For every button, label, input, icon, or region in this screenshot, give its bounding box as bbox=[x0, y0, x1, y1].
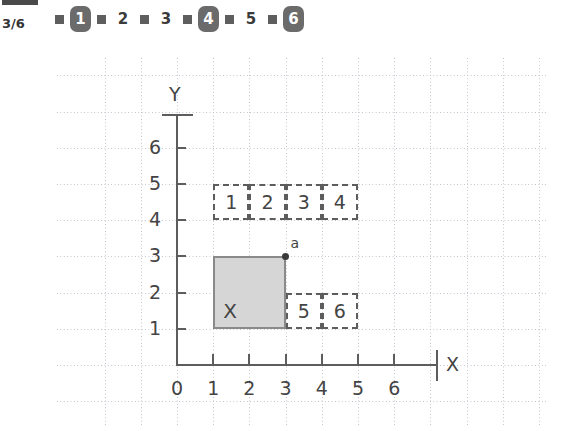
gridline-horizontal bbox=[57, 401, 546, 402]
chart-panel: Y X 123456 0123456 123456 X a bbox=[57, 58, 546, 427]
x-tick-label-2: 2 bbox=[238, 379, 260, 398]
x-axis-line bbox=[176, 364, 438, 366]
square-bullet-icon bbox=[140, 15, 149, 24]
x-axis-label: X bbox=[446, 354, 459, 374]
gridline-vertical bbox=[322, 58, 323, 427]
gridline-vertical bbox=[467, 58, 468, 427]
gridline-horizontal bbox=[57, 75, 546, 76]
top-progress-bar bbox=[2, 0, 38, 5]
y-axis-label: Y bbox=[169, 84, 181, 104]
gridline-horizontal bbox=[57, 112, 546, 113]
x-tick-6 bbox=[393, 354, 395, 364]
y-tick-label-3: 3 bbox=[139, 246, 161, 265]
gridline-horizontal bbox=[57, 220, 546, 221]
y-tick-label-4: 4 bbox=[139, 210, 161, 229]
y-tick-label-6: 6 bbox=[139, 138, 161, 157]
x-tick-label-5: 5 bbox=[347, 379, 369, 398]
x-tick-3 bbox=[285, 354, 287, 364]
gridline-vertical bbox=[141, 58, 142, 427]
pager-item-2[interactable]: 2 bbox=[113, 9, 133, 29]
y-tick-2 bbox=[178, 292, 186, 294]
y-tick-6 bbox=[178, 147, 186, 149]
gridline-horizontal bbox=[57, 329, 546, 330]
square-bullet-icon bbox=[55, 15, 64, 24]
gridline-horizontal bbox=[57, 256, 546, 257]
marked-point-dot bbox=[282, 253, 289, 260]
y-tick-label-1: 1 bbox=[139, 319, 161, 338]
x-tick-label-1: 1 bbox=[202, 379, 224, 398]
gridline-vertical bbox=[286, 58, 287, 427]
x-tick-label-3: 3 bbox=[275, 379, 297, 398]
dashed-cell-5[interactable]: 5 bbox=[286, 293, 322, 329]
y-tick-label-5: 5 bbox=[139, 174, 161, 193]
x-tick-label-4: 4 bbox=[311, 379, 333, 398]
marked-point-label: a bbox=[291, 236, 300, 250]
pager-item-6[interactable]: 6 bbox=[284, 7, 303, 31]
y-tick-3 bbox=[178, 255, 186, 257]
gridline-vertical bbox=[358, 58, 359, 427]
page-counter: 3/6 bbox=[2, 17, 25, 31]
gridline-vertical bbox=[394, 58, 395, 427]
x-axis-cap bbox=[436, 350, 438, 381]
square-bullet-icon bbox=[268, 15, 277, 24]
y-tick-label-2: 2 bbox=[139, 283, 161, 302]
x-tick-1 bbox=[212, 354, 214, 364]
dashed-cell-4[interactable]: 4 bbox=[322, 184, 358, 220]
x-tick-2 bbox=[248, 354, 250, 364]
filled-region-label: X bbox=[223, 301, 237, 321]
gridline-vertical bbox=[213, 58, 214, 427]
square-bullet-icon bbox=[225, 15, 234, 24]
x-tick-label-0: 0 bbox=[166, 379, 188, 398]
pager-item-list: 123456 bbox=[48, 4, 303, 34]
gridline-vertical bbox=[503, 58, 504, 427]
square-bullet-icon bbox=[97, 15, 106, 24]
gridline-horizontal bbox=[57, 148, 546, 149]
gridline-vertical bbox=[430, 58, 431, 427]
y-tick-1 bbox=[178, 328, 186, 330]
pager-item-4[interactable]: 4 bbox=[199, 7, 218, 31]
x-tick-label-6: 6 bbox=[383, 379, 405, 398]
gridline-vertical bbox=[539, 58, 540, 427]
y-tick-4 bbox=[178, 219, 186, 221]
pager-header: 3/6 123456 bbox=[0, 0, 569, 40]
dashed-cell-6[interactable]: 6 bbox=[322, 293, 358, 329]
dashed-cell-1[interactable]: 1 bbox=[213, 184, 249, 220]
x-tick-5 bbox=[357, 354, 359, 364]
x-tick-4 bbox=[321, 354, 323, 364]
dashed-cell-3[interactable]: 3 bbox=[286, 184, 322, 220]
dashed-cell-2[interactable]: 2 bbox=[249, 184, 285, 220]
y-axis-cap bbox=[162, 114, 193, 116]
pager-item-5[interactable]: 5 bbox=[241, 9, 261, 29]
pager-item-1[interactable]: 1 bbox=[71, 7, 90, 31]
pager-item-3[interactable]: 3 bbox=[156, 9, 176, 29]
gridline-vertical bbox=[249, 58, 250, 427]
gridline-vertical bbox=[105, 58, 106, 427]
square-bullet-icon bbox=[183, 15, 192, 24]
y-tick-5 bbox=[178, 183, 186, 185]
